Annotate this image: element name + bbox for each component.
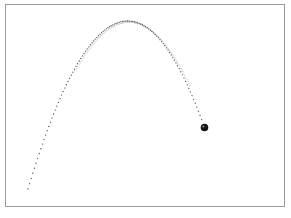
trail-dot	[121, 23, 122, 24]
trail-dot	[87, 50, 88, 51]
trail-dot	[48, 126, 49, 127]
trail-dot	[85, 53, 86, 54]
trail-dot	[166, 47, 167, 48]
trail-dot	[150, 29, 151, 30]
trail-dot	[31, 178, 32, 179]
trail-dot	[83, 53, 84, 54]
trail-dot	[179, 68, 180, 69]
trail-dot	[66, 84, 67, 85]
trail-dot	[101, 34, 102, 35]
trail-dot	[162, 41, 163, 42]
trail-dot	[108, 29, 109, 30]
trail-dot	[143, 25, 144, 26]
trail-dot	[167, 48, 168, 49]
trail-dot	[61, 94, 62, 95]
trail-dot	[32, 173, 33, 174]
trail-dot	[199, 115, 200, 116]
trail-dot	[34, 168, 35, 169]
trail-dot	[137, 22, 138, 23]
trail-dot	[158, 37, 159, 38]
trail-dot	[185, 77, 186, 78]
trail-dot	[116, 24, 117, 25]
trail-dot	[109, 26, 110, 27]
trail-dot	[69, 78, 70, 79]
trail-dot	[172, 57, 173, 58]
trail-dot	[82, 55, 83, 56]
trail-dot	[92, 44, 93, 45]
trail-dot	[83, 56, 84, 57]
trail-dot	[47, 130, 48, 131]
trail-dot	[122, 22, 123, 23]
trail-dot	[148, 28, 149, 29]
trail-dot	[164, 44, 165, 45]
trail-dot	[188, 83, 189, 84]
trail-dot	[118, 23, 119, 24]
trail-dot	[113, 26, 114, 27]
trail-dot	[77, 63, 78, 64]
trail-dot	[171, 54, 172, 55]
trail-dot	[79, 63, 80, 64]
trail-dot	[120, 21, 121, 22]
trail-dot	[129, 20, 130, 21]
trail-dot	[77, 66, 78, 67]
trail-dot	[67, 81, 68, 82]
trail-dot	[127, 20, 128, 21]
ball-highlight	[202, 126, 204, 128]
trail-dot	[78, 64, 79, 65]
trail-dot	[79, 60, 80, 61]
trajectory-plot	[0, 0, 291, 218]
trail-dot	[190, 91, 191, 92]
trail-dot	[56, 106, 57, 107]
trail-dot	[37, 158, 38, 159]
trail-dot	[50, 122, 51, 123]
trail-dot	[201, 119, 202, 120]
trail-dot	[174, 60, 175, 61]
trail-dot	[82, 58, 83, 59]
trail-dot	[111, 25, 112, 26]
trail-dot	[117, 24, 118, 25]
trail-dot	[99, 36, 100, 37]
trail-dot	[186, 79, 187, 80]
trail-dot	[27, 188, 28, 189]
ball	[201, 124, 209, 132]
trail-dot	[97, 38, 98, 39]
trail-dot	[106, 30, 107, 31]
trail-dot	[164, 45, 165, 46]
trail-dot	[111, 27, 112, 28]
trail-dot	[170, 52, 171, 53]
trail-dot	[114, 25, 115, 26]
trail-dot	[39, 153, 40, 154]
trail-dot	[157, 36, 158, 37]
trail-dot	[129, 22, 130, 23]
trail-dot	[95, 38, 96, 39]
trail-dot	[183, 73, 184, 74]
trail-dot	[76, 68, 77, 69]
trail-dot	[132, 21, 133, 22]
trail-dot	[126, 22, 127, 23]
trail-dot	[42, 143, 43, 144]
trail-dot	[119, 22, 120, 23]
trail-dot	[153, 32, 154, 33]
trail-dot	[180, 68, 181, 69]
trail-dot	[72, 72, 73, 73]
trail-dot	[169, 50, 170, 51]
trail-dot	[161, 41, 162, 42]
trail-dot	[163, 43, 164, 44]
trail-dot	[124, 22, 125, 23]
trail-dot	[147, 27, 148, 28]
trail-dot	[175, 59, 176, 60]
trail-dot	[167, 49, 168, 50]
trail-dot	[86, 52, 87, 53]
trail-dot	[195, 103, 196, 104]
trail-dot	[90, 44, 91, 45]
trail-dot	[127, 22, 128, 23]
trail-dot	[40, 148, 41, 149]
trail-dot	[139, 23, 140, 24]
trail-dot	[131, 22, 132, 23]
trail-dot	[122, 21, 123, 22]
canvas-frame	[6, 5, 285, 207]
trail-dot	[98, 35, 99, 36]
trail-dot	[196, 107, 197, 108]
trail-dot	[123, 22, 124, 23]
trail-dot	[114, 23, 115, 24]
